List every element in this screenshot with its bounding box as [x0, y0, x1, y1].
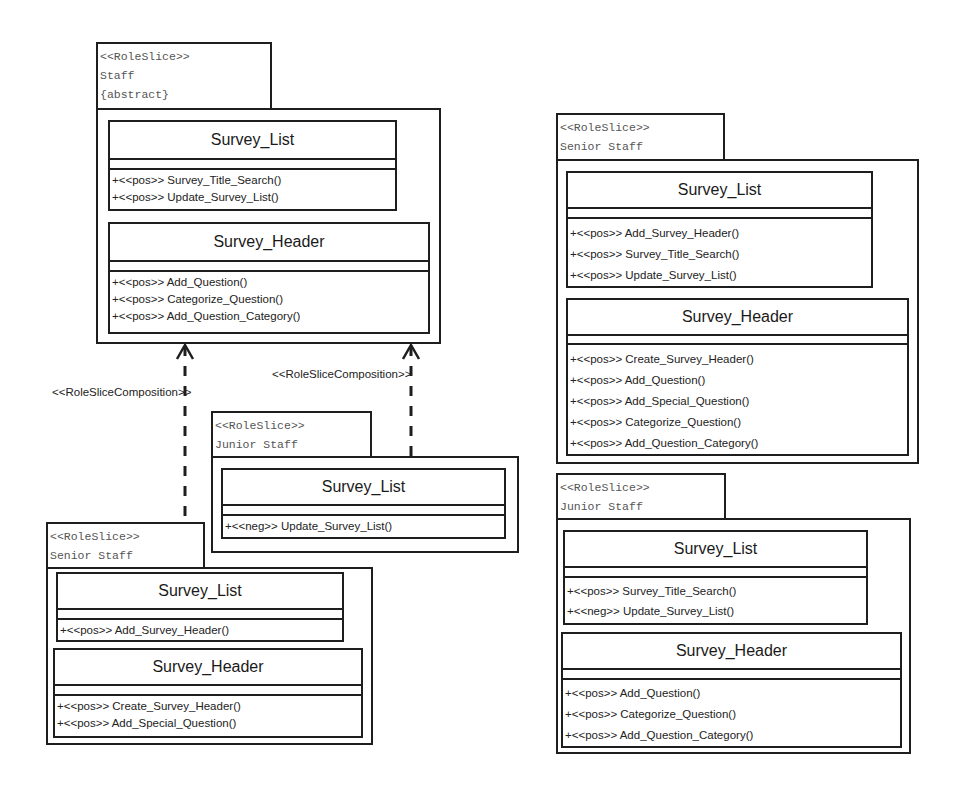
- operation: +<<pos>> Create_Survey_Header(): [57, 698, 361, 715]
- attributes-compartment: [568, 209, 871, 219]
- operation: +<<pos>> Create_Survey_Header(): [570, 349, 907, 370]
- operations-compartment: +<<pos>> Add_Question() +<<pos>> Categor…: [110, 272, 428, 325]
- class-survey-list[interactable]: Survey_List +<<pos>> Add_Survey_Header(): [56, 572, 344, 642]
- operations-compartment: +<<pos>> Survey_Title_Search() +<<pos>> …: [110, 170, 395, 206]
- stereotype-label: <<RoleSlice>>: [100, 47, 270, 66]
- class-name: Survey_List: [565, 532, 866, 568]
- role-slice-name: Senior Staff: [50, 546, 203, 565]
- stereotype-label: <<RoleSlice>>: [215, 416, 370, 435]
- role-slice-tab: <<RoleSlice>> Senior Staff: [46, 522, 205, 569]
- class-name: Survey_Header: [110, 224, 428, 262]
- composition-arrow-senior-to-staff: [177, 345, 193, 522]
- operation: +<<pos>> Survey_Title_Search(): [567, 581, 866, 601]
- composition-arrow-junior-to-staff: [403, 345, 419, 456]
- stereotype-label: <<RoleSlice>>: [560, 118, 723, 137]
- stereotype-label: <<RoleSlice>>: [560, 478, 724, 497]
- composition-label-senior: <<RoleSliceComposition>>: [52, 386, 191, 398]
- operation: +<<pos>> Update_Survey_List(): [112, 189, 395, 206]
- attributes-compartment: [55, 686, 361, 696]
- operation: +<<pos>> Add_Question(): [565, 683, 900, 704]
- attributes-compartment: [110, 160, 395, 170]
- operations-compartment: +<<neg>> Update_Survey_List(): [223, 516, 504, 535]
- operations-compartment: +<<pos>> Create_Survey_Header() +<<pos>>…: [55, 696, 361, 732]
- role-slice-name: Senior Staff: [560, 137, 723, 156]
- class-survey-header[interactable]: Survey_Header +<<pos>> Create_Survey_Hea…: [566, 298, 909, 456]
- operation: +<<pos>> Add_Question(): [570, 370, 907, 391]
- composition-label-junior: <<RoleSliceComposition>>: [272, 368, 411, 380]
- operation: +<<neg>> Update_Survey_List(): [567, 601, 866, 621]
- abstract-modifier: {abstract}: [100, 85, 270, 104]
- operation: +<<pos>> Add_Question_Category(): [570, 433, 907, 454]
- operation: +<<pos>> Categorize_Question(): [565, 704, 900, 725]
- operations-compartment: +<<pos>> Create_Survey_Header() +<<pos>>…: [568, 345, 907, 454]
- class-name: Survey_List: [223, 470, 504, 506]
- operation: +<<pos>> Add_Question(): [112, 274, 428, 291]
- operation: +<<pos>> Add_Special_Question(): [570, 391, 907, 412]
- role-slice-tab: <<RoleSlice>> Junior Staff: [556, 473, 726, 520]
- class-name: Survey_List: [568, 173, 871, 209]
- operation: +<<pos>> Survey_Title_Search(): [112, 172, 395, 189]
- attributes-compartment: [565, 568, 866, 578]
- role-slice-name: Junior Staff: [560, 497, 724, 516]
- class-survey-header[interactable]: Survey_Header +<<pos>> Add_Question() +<…: [561, 632, 902, 748]
- class-survey-header[interactable]: Survey_Header +<<pos>> Create_Survey_Hea…: [53, 648, 363, 738]
- operation: +<<pos>> Survey_Title_Search(): [570, 244, 871, 265]
- role-slice-tab: <<RoleSlice>> Staff {abstract}: [96, 42, 272, 110]
- class-name: Survey_Header: [55, 650, 361, 686]
- class-survey-list[interactable]: Survey_List +<<neg>> Update_Survey_List(…: [221, 468, 506, 539]
- class-name: Survey_Header: [563, 634, 900, 670]
- operations-compartment: +<<pos>> Add_Question() +<<pos>> Categor…: [563, 680, 900, 746]
- class-name: Survey_Header: [568, 300, 907, 336]
- role-slice-name: Junior Staff: [215, 435, 370, 454]
- operations-compartment: +<<pos>> Add_Survey_Header(): [58, 620, 342, 639]
- attributes-compartment: [563, 670, 900, 680]
- operation: +<<pos>> Categorize_Question(): [112, 291, 428, 308]
- operation: +<<neg>> Update_Survey_List(): [225, 518, 504, 535]
- class-survey-list[interactable]: Survey_List +<<pos>> Survey_Title_Search…: [563, 530, 868, 625]
- role-slice-name: Staff: [100, 66, 270, 85]
- class-name: Survey_List: [110, 122, 395, 160]
- attributes-compartment: [568, 336, 907, 345]
- class-survey-list[interactable]: Survey_List +<<pos>> Add_Survey_Header()…: [566, 171, 873, 288]
- attributes-compartment: [223, 506, 504, 516]
- operation: +<<pos>> Add_Survey_Header(): [60, 622, 342, 639]
- operation: +<<pos>> Categorize_Question(): [570, 412, 907, 433]
- operations-compartment: +<<pos>> Survey_Title_Search() +<<neg>> …: [565, 578, 866, 621]
- class-name: Survey_List: [58, 574, 342, 610]
- operation: +<<pos>> Update_Survey_List(): [570, 265, 871, 286]
- role-slice-tab: <<RoleSlice>> Senior Staff: [556, 113, 725, 161]
- operation: +<<pos>> Add_Question_Category(): [565, 725, 900, 746]
- role-slice-tab: <<RoleSlice>> Junior Staff: [211, 411, 372, 458]
- attributes-compartment: [110, 262, 428, 272]
- class-survey-header[interactable]: Survey_Header +<<pos>> Add_Question() +<…: [108, 222, 430, 334]
- stereotype-label: <<RoleSlice>>: [50, 527, 203, 546]
- operation: +<<pos>> Add_Survey_Header(): [570, 223, 871, 244]
- class-survey-list[interactable]: Survey_List +<<pos>> Survey_Title_Search…: [108, 120, 397, 211]
- operations-compartment: +<<pos>> Add_Survey_Header() +<<pos>> Su…: [568, 219, 871, 286]
- attributes-compartment: [58, 610, 342, 620]
- operation: +<<pos>> Add_Question_Category(): [112, 308, 428, 325]
- operation: +<<pos>> Add_Special_Question(): [57, 715, 361, 732]
